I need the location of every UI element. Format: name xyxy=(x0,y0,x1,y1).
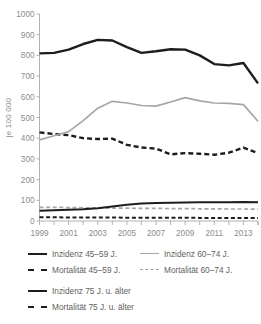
y-tick-label: 1000 xyxy=(16,10,35,19)
y-tick-label: 500 xyxy=(21,114,35,123)
y-tick-label: 300 xyxy=(21,155,35,164)
y-tick-label: 700 xyxy=(21,72,35,81)
y-tick-label: 800 xyxy=(21,51,35,60)
y-tick-label: 400 xyxy=(21,134,35,143)
legend-swatch-icon xyxy=(28,249,47,258)
y-tick-label: 600 xyxy=(21,93,35,102)
y-tick-labels: 01002003004005006007008009001000 xyxy=(16,10,39,226)
chart-figure: 01002003004005006007008009001000 je 100 … xyxy=(0,0,261,324)
y-tick-label: 200 xyxy=(21,176,35,185)
legend-label: Mortalität 45–59 J. xyxy=(52,265,120,275)
x-tick-marks xyxy=(40,221,259,225)
legend-swatch-icon xyxy=(28,302,47,311)
legend-item[interactable]: Inzidenz 45–59 J. xyxy=(28,247,140,260)
x-tick-label: 2003 xyxy=(89,229,108,238)
axis-lines xyxy=(40,14,259,221)
y-axis-label: je 100 000 xyxy=(4,97,13,138)
legend-swatch-icon xyxy=(140,265,159,274)
legend-swatch-icon xyxy=(28,265,47,274)
legend-label: Inzidenz 60–74 J. xyxy=(164,249,229,259)
x-tick-label: 2011 xyxy=(205,229,223,238)
series-line xyxy=(40,98,259,140)
legend-item[interactable]: Inzidenz 75 J. u. älter xyxy=(28,284,228,297)
x-tick-label: 2007 xyxy=(147,229,166,238)
y-tick-label: 100 xyxy=(21,196,35,205)
series-line xyxy=(40,40,259,83)
legend-swatch-icon xyxy=(28,286,47,295)
legend-item[interactable]: Mortalität 45–59 J. xyxy=(28,263,140,276)
y-axis-title: je 100 000 xyxy=(4,97,13,138)
series-line xyxy=(40,132,259,154)
legend-group-primary: Inzidenz 45–59 J.Inzidenz 60–74 J.Mortal… xyxy=(28,247,261,276)
legend: Inzidenz 45–59 J.Inzidenz 60–74 J.Mortal… xyxy=(0,243,261,324)
x-tick-label: 2005 xyxy=(118,229,137,238)
y-tick-label: 0 xyxy=(30,217,35,226)
x-tick-label: 2013 xyxy=(234,229,253,238)
line-chart: 01002003004005006007008009001000 je 100 … xyxy=(0,0,261,240)
legend-label: Inzidenz 45–59 J. xyxy=(52,249,117,259)
series-line xyxy=(40,217,259,218)
legend-item[interactable]: Mortalität 60–74 J. xyxy=(140,263,261,276)
x-tick-label: 1999 xyxy=(30,229,49,238)
legend-group-secondary: Inzidenz 75 J. u. älterMortalität 75 J. … xyxy=(28,284,261,313)
legend-item[interactable]: Mortalität 75 J. u. älter xyxy=(28,300,228,313)
x-tick-labels: 19992001200320052007200920112013 xyxy=(30,229,253,238)
legend-label: Inzidenz 75 J. u. älter xyxy=(52,286,131,296)
plot-area: 01002003004005006007008009001000 je 100 … xyxy=(0,0,261,240)
legend-label: Mortalität 75 J. u. älter xyxy=(52,302,134,312)
y-tick-label: 900 xyxy=(21,31,35,40)
series-lines xyxy=(40,40,259,218)
legend-swatch-icon xyxy=(140,249,159,258)
x-tick-label: 2009 xyxy=(176,229,195,238)
legend-item[interactable]: Inzidenz 60–74 J. xyxy=(140,247,261,260)
x-tick-label: 2001 xyxy=(60,229,79,238)
legend-label: Mortalität 60–74 J. xyxy=(164,265,232,275)
